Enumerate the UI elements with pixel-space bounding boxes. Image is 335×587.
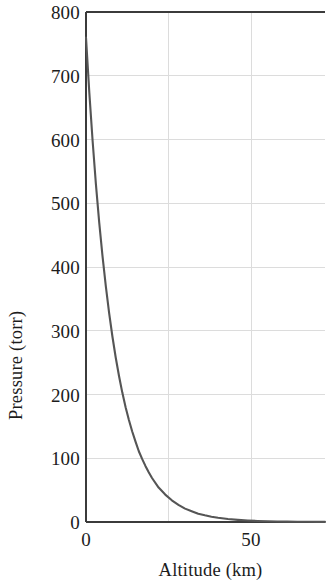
pressure-altitude-chart: 8007006005004003002001000 050 Pressure (… xyxy=(0,0,335,587)
x-axis-tick-label: 0 xyxy=(81,530,91,549)
y-axis-tick-label: 700 xyxy=(18,66,80,85)
data-curve-group xyxy=(86,38,325,522)
y-axis-tick-label: 300 xyxy=(18,321,80,340)
y-axis-tick-label: 100 xyxy=(18,449,80,468)
pressure-curve xyxy=(86,38,325,522)
gridlines-group xyxy=(86,12,325,522)
y-axis-tick-label: 600 xyxy=(18,130,80,149)
x-axis-tick-label: 50 xyxy=(241,530,260,549)
y-axis-tick-label: 400 xyxy=(18,258,80,277)
y-axis-title: Pressure (torr) xyxy=(6,120,27,420)
y-axis-tick-label: 200 xyxy=(18,385,80,404)
y-axis-tick-label: 500 xyxy=(18,194,80,213)
plot-canvas xyxy=(0,0,335,587)
y-axis-tick-label: 800 xyxy=(18,3,80,22)
y-axis-tick-label: 0 xyxy=(18,513,80,532)
x-axis-title: Altitude (km) xyxy=(86,560,335,581)
